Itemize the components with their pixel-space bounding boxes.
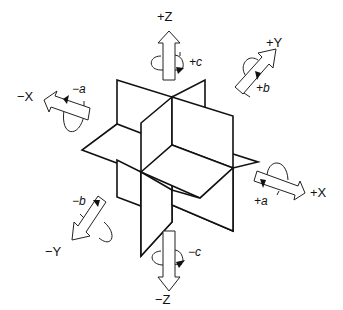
label-minus-y: −Y — [45, 245, 61, 258]
label-plus-c: +c — [189, 56, 202, 68]
tick-mark — [277, 191, 279, 195]
minus-x-arrow — [44, 91, 90, 132]
label-minus-c: −c — [188, 246, 201, 258]
minus-z-arrow — [152, 231, 185, 291]
rotation-arrowhead-plus-c — [176, 67, 184, 74]
tick-mark — [244, 93, 250, 97]
intersecting-planes — [82, 80, 258, 256]
label-minus-b: −b — [72, 195, 86, 207]
planes-and-arrows-drawing — [0, 0, 343, 310]
rotation-arrowhead-minus-c — [176, 260, 185, 268]
label-plus-a: +a — [254, 195, 268, 207]
axis-diagram: +Z +c −Z −c +Y +b −Y −b +X +a −X −a — [0, 0, 343, 310]
label-minus-x: −X — [17, 90, 33, 103]
arrow-body-minus-z — [158, 231, 180, 291]
label-plus-b: +b — [256, 82, 270, 94]
label-minus-z: −Z — [155, 293, 171, 306]
label-minus-a: −a — [72, 83, 86, 95]
plus-z-arrow — [151, 31, 184, 80]
label-plus-x: +X — [310, 186, 326, 199]
label-plus-y: +Y — [266, 36, 282, 49]
tick-mark — [80, 214, 84, 218]
rotation-loop-minus-b — [99, 222, 112, 242]
rotation-loop-minus-c-front — [175, 250, 183, 262]
label-plus-z: +Z — [157, 10, 173, 23]
